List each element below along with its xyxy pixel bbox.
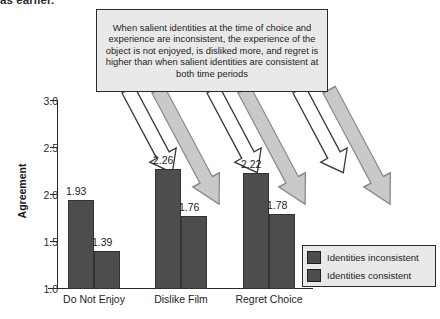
legend-swatch-icon-consistent: [307, 269, 321, 282]
bar-value-regret-choice-inconsistent: 2.22: [241, 158, 261, 170]
bar-value-regret-choice-consistent: 1.78: [267, 199, 287, 211]
x-category-regret-choice: Regret Choice: [228, 293, 310, 305]
bar-value-dislike-film-consistent: 1.76: [179, 201, 199, 213]
x-category-do-not-enjoy: Do Not Enjoy: [53, 293, 135, 305]
y-tick-label-2.0: 2.0: [32, 189, 58, 201]
bar-value-do-not-enjoy-inconsistent: 1.93: [66, 185, 86, 197]
chart-legend: Identities inconsistent Identities consi…: [302, 245, 436, 287]
legend-label-inconsistent: Identities inconsistent: [327, 252, 419, 263]
legend-item-identities-consistent: Identities consistent: [307, 267, 431, 284]
bar-dislike-film-inconsistent: [155, 169, 181, 289]
legend-label-consistent: Identities consistent: [327, 270, 411, 281]
bar-do-not-enjoy-inconsistent: [68, 200, 94, 289]
y-tick-label-2.5: 2.5: [32, 142, 58, 154]
bar-value-dislike-film-inconsistent: 2.26: [153, 154, 173, 166]
bar-regret-choice-inconsistent: [243, 173, 269, 289]
legend-item-identities-inconsistent: Identities inconsistent: [307, 249, 431, 266]
x-category-dislike-film: Dislike Film: [140, 293, 222, 305]
bar-dislike-film-consistent: [181, 216, 207, 289]
y-tick-label-1.5: 1.5: [32, 236, 58, 248]
chart-page: as earlier.: [0, 0, 440, 319]
callout-text: When salient identities at the time of c…: [102, 22, 322, 80]
callout-textbox: When salient identities at the time of c…: [96, 9, 328, 92]
bar-regret-choice-consistent: [269, 214, 295, 289]
bar-do-not-enjoy-consistent: [94, 251, 120, 289]
y-axis-title: Agreement: [16, 155, 28, 227]
legend-swatch-icon-inconsistent: [307, 251, 321, 264]
bar-value-do-not-enjoy-consistent: 1.39: [92, 236, 112, 248]
y-tick-label-3.0: 3.0: [32, 95, 58, 107]
